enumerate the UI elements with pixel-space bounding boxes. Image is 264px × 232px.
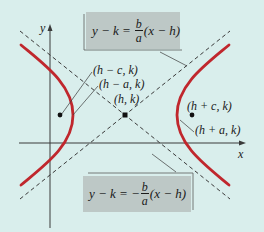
y-axis-label: y: [40, 22, 45, 34]
upper-asymptote-equation: y − k = b a (x − h): [86, 12, 180, 49]
leader-lower-asymptote: [152, 154, 176, 172]
upper-eq-denominator: a: [136, 31, 142, 44]
leader-left-focus: [61, 72, 92, 115]
center-point: [123, 113, 128, 118]
lower-eq-lhs: y − k = −: [89, 186, 140, 202]
lower-eq-denominator: a: [142, 194, 148, 207]
upper-eq-fraction: b a: [135, 18, 143, 44]
lower-eq-numerator: b: [141, 181, 149, 194]
lower-asymptote-equation: y − k = − b a (x − h): [83, 176, 191, 212]
left-focus-point: [58, 113, 63, 118]
lower-eq-fraction: b a: [141, 181, 149, 207]
hyperbola-left-branch: [21, 45, 73, 185]
hyperbola-right-branch: [177, 45, 229, 185]
leader-upper-asymptote: [160, 52, 187, 66]
upper-eq-numerator: b: [135, 18, 143, 31]
leader-left-vertex: [73, 86, 98, 115]
x-axis-arrow: [239, 141, 246, 146]
left-vertex-label: (h − a, k): [99, 78, 144, 90]
lower-eq-rhs: (x − h): [150, 186, 186, 202]
leader-right-vertex: [180, 120, 194, 132]
upper-eq-lhs: y − k =: [92, 23, 131, 39]
upper-eq-rhs: (x − h): [144, 23, 180, 39]
left-focus-label: (h − c, k): [93, 64, 138, 76]
x-axis-label: x: [238, 148, 243, 160]
right-focus-label: (h + c, k): [187, 100, 232, 112]
center-label: (h, k): [114, 93, 139, 105]
right-vertex-label: (h + a, k): [195, 124, 240, 136]
right-focus-point: [190, 113, 195, 118]
y-axis-arrow: [48, 24, 53, 31]
